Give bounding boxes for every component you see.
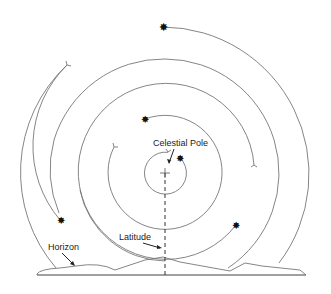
trail-3 (78, 83, 254, 259)
star-icon: ✸ (57, 215, 65, 226)
tail-fork-icon (251, 165, 257, 167)
star-icon: ✸ (176, 153, 184, 164)
horizon-label: Horizon (48, 242, 79, 252)
tail-fork-icon (113, 143, 118, 147)
arrowhead-icon (157, 245, 162, 249)
latitude-label: Latitude (119, 232, 151, 242)
tail-fork-icon (166, 149, 171, 152)
crosshair-icon (160, 168, 170, 178)
trail-4 (33, 65, 67, 220)
star-icon: ✸ (232, 220, 240, 231)
horizon-line (37, 257, 306, 275)
star-icon: ✸ (159, 21, 168, 33)
star-icon: ✸ (141, 114, 149, 125)
trail-5b (21, 65, 67, 268)
celestial-pole-label: Celestial Pole (153, 138, 208, 148)
trail-3b (80, 190, 165, 261)
star-trail-diagram: ✸ ✸ ✸ ✸ ✸ Celestial Pole Latitude Horizo… (0, 0, 331, 294)
